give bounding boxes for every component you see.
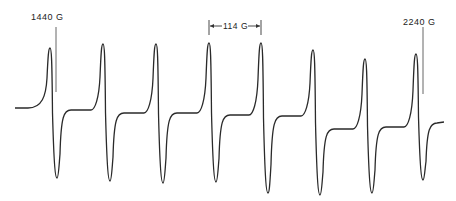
spectrum-trace xyxy=(15,43,444,195)
right-field-label: 2240 G xyxy=(403,17,436,27)
spacing-label: 114 G xyxy=(223,21,248,31)
left-field-label: 1440 G xyxy=(31,12,64,22)
